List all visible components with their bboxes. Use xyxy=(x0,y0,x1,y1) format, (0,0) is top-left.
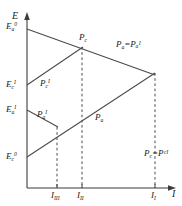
curve-label-pc-top: Pc xyxy=(79,33,87,43)
y-label-ea0-sup: 0 xyxy=(14,21,17,27)
curve-label-pa-mid: Pa xyxy=(95,113,103,123)
x-tick-i3-sub: III xyxy=(54,195,60,201)
x-tick-label-i3: IIII xyxy=(51,191,60,201)
y-label-ec0-sup: 0 xyxy=(14,151,17,157)
y-label-ecI: EcI xyxy=(6,80,16,90)
polarization-diagram-figure: E I Ea0 EcI EaI Ec0 IIII III II Pc Pa=Pₐ… xyxy=(0,0,182,206)
curve-label-pa-mid-sub: a xyxy=(101,117,104,123)
y-label-eaI: EaI xyxy=(6,105,16,115)
curve-label-pa-eq-paI: Pa=Pₐᴵ xyxy=(116,40,141,50)
y-label-ea0: Ea0 xyxy=(6,22,17,32)
curve-label-pc-eq-rhs: =Pᶜᴵ xyxy=(152,148,168,158)
diagram-canvas xyxy=(0,0,182,206)
curve-label-pc-eq-pcI: Pc=Pᶜᴵ xyxy=(144,149,168,159)
x-tick-i2-sub: II xyxy=(80,195,84,201)
x-tick-label-i2: III xyxy=(77,191,84,201)
y-axis-name: E xyxy=(12,11,18,21)
y-axis-arrowhead xyxy=(24,12,30,20)
x-tick-label-i1: II xyxy=(151,191,156,201)
y-label-ec0: Ec0 xyxy=(6,152,17,162)
x-axis-name: I xyxy=(172,189,175,199)
curve-label-paI-sup: I xyxy=(45,109,47,115)
curve-anodic-main xyxy=(27,29,155,75)
curve-label-pa-eq-rhs: =Pₐᴵ xyxy=(124,39,141,49)
x-tick-i1-sub: I xyxy=(154,195,156,201)
curve-label-pcI-sup: I xyxy=(48,78,50,84)
curve-cathodic-one xyxy=(27,47,83,85)
curve-label-pc-top-sub: c xyxy=(85,37,87,43)
curve-label-paI: PaI xyxy=(37,110,47,120)
y-label-ecI-sup: I xyxy=(14,79,16,85)
curve-label-pcI: PcI xyxy=(40,79,50,89)
y-label-eaI-sup: I xyxy=(14,104,16,110)
